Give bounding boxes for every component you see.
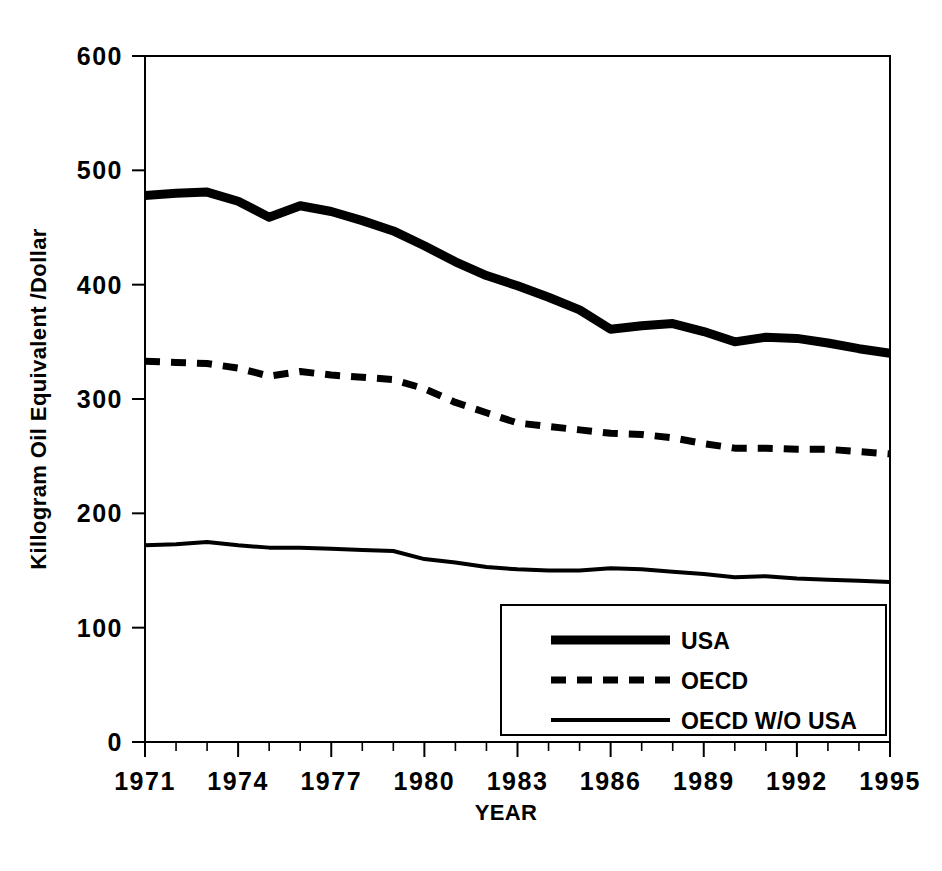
x-axis-tick-labels: 197119741977198019831986198919921995 bbox=[114, 767, 921, 795]
x-tick-label: 1971 bbox=[114, 767, 176, 795]
y-tick-label: 100 bbox=[77, 614, 123, 642]
legend-label: OECD bbox=[681, 668, 748, 694]
chart-legend: USAOECDOECD W/O USA bbox=[501, 605, 886, 735]
series-line-oecd-w-o-usa bbox=[145, 542, 890, 582]
legend-label: USA bbox=[681, 628, 730, 654]
y-axis-tick-labels: 0100200300400500600 bbox=[77, 42, 123, 756]
line-chart: 0100200300400500600 19711974197719801983… bbox=[0, 0, 942, 871]
series-lines bbox=[145, 192, 890, 582]
y-tick-label: 400 bbox=[77, 271, 123, 299]
x-tick-label: 1977 bbox=[300, 767, 362, 795]
x-tick-label: 1992 bbox=[766, 767, 828, 795]
x-tick-label: 1974 bbox=[207, 767, 269, 795]
y-axis-title: Killogram Oil Equivalent /Dollar bbox=[26, 228, 51, 570]
chart-figure: 0100200300400500600 19711974197719801983… bbox=[0, 0, 942, 871]
series-line-oecd bbox=[145, 361, 890, 454]
y-tick-label: 500 bbox=[77, 156, 123, 184]
y-tick-label: 300 bbox=[77, 385, 123, 413]
legend-label: OECD W/O USA bbox=[681, 708, 857, 734]
y-axis-tickmarks bbox=[132, 56, 145, 742]
y-tick-label: 200 bbox=[77, 499, 123, 527]
x-tick-label: 1986 bbox=[580, 767, 642, 795]
x-axis-title: YEAR bbox=[475, 800, 538, 825]
x-tick-label: 1989 bbox=[673, 767, 735, 795]
x-axis-major-tickmarks bbox=[145, 742, 890, 757]
series-line-usa bbox=[145, 192, 890, 353]
x-tick-label: 1980 bbox=[394, 767, 456, 795]
y-tick-label: 600 bbox=[77, 42, 123, 70]
x-tick-label: 1983 bbox=[487, 767, 549, 795]
y-tick-label: 0 bbox=[108, 728, 123, 756]
x-tick-label: 1995 bbox=[859, 767, 921, 795]
